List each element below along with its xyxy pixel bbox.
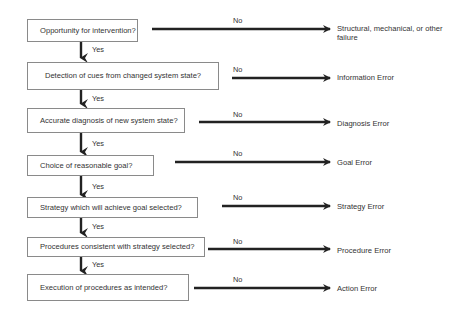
- decision-box-goal: Choice of reasonable goal?: [27, 155, 154, 176]
- no-label-6: No: [233, 238, 242, 245]
- no-label-4: No: [233, 150, 242, 157]
- result-strategy-error: Strategy Error: [337, 202, 384, 211]
- no-label-3: No: [233, 111, 242, 118]
- decision-label: Strategy which will achieve goal selecte…: [40, 204, 182, 212]
- result-action-error: Action Error: [337, 284, 377, 293]
- yes-label-6: Yes: [92, 261, 104, 268]
- yes-label-1: Yes: [92, 46, 104, 53]
- decision-label: Opportunity for intervention?: [40, 27, 136, 35]
- decision-label: Execution of procedures as intended?: [40, 284, 168, 292]
- decision-label: Procedures consistent with strategy sele…: [40, 243, 195, 251]
- decision-box-diagnosis: Accurate diagnosis of new system state?: [27, 108, 185, 133]
- decision-box-procedures: Procedures consistent with strategy sele…: [27, 237, 205, 257]
- no-label-2: No: [233, 66, 242, 73]
- yes-label-4: Yes: [92, 183, 104, 190]
- decision-box-opportunity: Opportunity for intervention?: [27, 19, 138, 42]
- result-line-2: failure: [337, 33, 443, 42]
- yes-label-3: Yes: [92, 140, 104, 147]
- no-label-7: No: [233, 276, 242, 283]
- result-diagnosis-error: Diagnosis Error: [337, 119, 389, 128]
- flowchart: Opportunity for intervention? Detection …: [0, 0, 469, 318]
- result-structural-failure: Structural, mechanical, or other failure: [337, 24, 443, 43]
- no-label-5: No: [233, 194, 242, 201]
- decision-label: Choice of reasonable goal?: [40, 162, 132, 170]
- decision-box-strategy: Strategy which will achieve goal selecte…: [27, 197, 198, 218]
- decision-label: Detection of cues from changed system st…: [45, 72, 201, 80]
- no-label-1: No: [233, 17, 242, 24]
- result-information-error: Information Error: [337, 73, 394, 82]
- yes-label-2: Yes: [92, 95, 104, 102]
- decision-label: Accurate diagnosis of new system state?: [40, 117, 178, 125]
- decision-box-detection: Detection of cues from changed system st…: [27, 62, 219, 90]
- result-line-1: Structural, mechanical, or other: [337, 24, 443, 33]
- result-procedure-error: Procedure Error: [337, 246, 391, 255]
- result-goal-error: Goal Error: [337, 158, 372, 167]
- decision-box-execution: Execution of procedures as intended?: [27, 274, 189, 301]
- yes-label-5: Yes: [92, 223, 104, 230]
